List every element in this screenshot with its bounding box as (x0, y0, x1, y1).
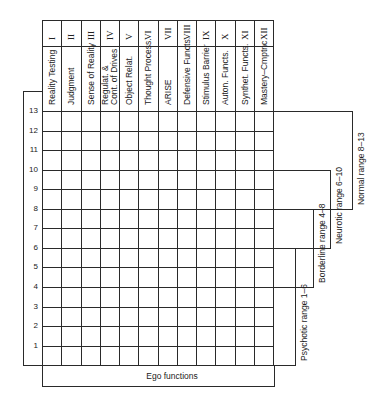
column-numeral: III (86, 31, 96, 40)
range-bracket-side (352, 111, 353, 210)
column-line (254, 20, 255, 365)
column-label: Synthet. Functs. (240, 44, 250, 105)
range-label: Neurotic range 6–10 (334, 167, 344, 244)
column-numeral: II (66, 34, 76, 40)
row-level-label: 4 (24, 282, 38, 291)
column-label: Judgment (66, 68, 76, 105)
row-line (42, 326, 273, 327)
outer-bracket-top (23, 91, 42, 92)
column-numeral: XII (259, 28, 269, 41)
column-line (158, 20, 159, 365)
column-numeral: IV (105, 31, 115, 41)
range-label: Psychotic range 1–6 (299, 284, 309, 361)
row-level-label: 13 (24, 106, 38, 115)
range-bracket-top (273, 170, 330, 171)
row-level-label: 5 (24, 262, 38, 271)
row-line (42, 267, 273, 268)
row-line (42, 170, 273, 171)
column-line (61, 20, 62, 365)
column-line (177, 20, 178, 365)
row-line (42, 307, 273, 308)
range-bracket-side (330, 170, 331, 249)
column-label: Regulat. &Cont. of Drives (101, 49, 119, 105)
column-label: Stimulus Barrier (201, 45, 211, 105)
column-label: Sense of Reality (86, 43, 96, 105)
row-line (42, 209, 273, 210)
row-line (42, 346, 273, 347)
column-label: ARISE (163, 79, 173, 105)
column-numeral: I (47, 37, 57, 40)
column-line (42, 20, 43, 365)
row-level-label: 8 (24, 204, 38, 213)
column-numeral: X (220, 34, 230, 41)
column-line (138, 20, 139, 365)
column-label: Defensive Functs. (182, 37, 192, 105)
row-level-label: 9 (24, 184, 38, 193)
column-numeral: XI (240, 31, 250, 41)
column-line (273, 20, 274, 365)
ego-functions-label: Ego functions (62, 371, 282, 381)
row-level-label: 11 (24, 145, 38, 154)
range-bracket-top (273, 111, 352, 112)
column-numeral: VII (163, 28, 173, 41)
row-level-label: 3 (24, 302, 38, 311)
row-level-label: 10 (24, 165, 38, 174)
row-level-label: 1 (24, 341, 38, 350)
row-line (42, 111, 273, 112)
column-line (235, 20, 236, 365)
range-bracket-top (273, 209, 313, 210)
range-bracket-side (313, 209, 314, 288)
column-label: Auton. Functs. (220, 50, 230, 105)
column-label: Object Relat. (124, 56, 134, 105)
row-level-label: 2 (24, 321, 38, 330)
outer-bracket-bottom (23, 365, 295, 366)
column-line (215, 20, 216, 365)
ego-box-bottom (42, 386, 275, 387)
column-line (119, 20, 120, 365)
column-label: Mastery–Cmptnc (259, 41, 269, 105)
range-bracket-top (273, 248, 295, 249)
row-line (42, 248, 273, 249)
column-label: Thought Process. (143, 38, 153, 105)
range-label: Normal range 8–13 (356, 132, 366, 205)
row-level-label: 12 (24, 126, 38, 135)
range-label: Borderline range 4–8 (317, 204, 327, 283)
row-level-label: 6 (24, 243, 38, 252)
column-label: Reality Testing (47, 50, 57, 105)
row-line (42, 189, 273, 190)
range-bracket-side (295, 248, 296, 366)
column-numeral: IX (201, 31, 211, 41)
row-level-label: 7 (24, 223, 38, 232)
column-line (81, 20, 82, 365)
outer-bracket-left (23, 91, 24, 365)
row-line (42, 150, 273, 151)
row-line (42, 131, 273, 132)
column-numeral: V (124, 34, 134, 41)
row-line (42, 287, 273, 288)
row-line (42, 228, 273, 229)
column-line (196, 20, 197, 365)
ego-box-left (42, 365, 43, 386)
